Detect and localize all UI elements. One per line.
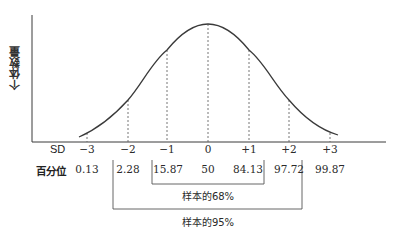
sd-tick: 0 (205, 143, 212, 155)
sd-tick: −3 (79, 143, 94, 155)
sd-tick: −1 (159, 143, 174, 155)
sd-tick: +2 (281, 143, 296, 155)
percentile-value: 2.28 (116, 163, 139, 175)
percentile-value: 99.87 (315, 163, 345, 175)
bracket-68-label: 样本的68% (182, 188, 234, 203)
percentile-value: 50 (201, 163, 214, 175)
percentile-row-label: 百分位 (36, 163, 66, 178)
sd-tick: +3 (322, 143, 337, 155)
percentile-value: 0.13 (75, 163, 98, 175)
percentile-value: 84.13 (233, 163, 263, 175)
bracket-95-label: 样本的95% (182, 214, 234, 229)
percentile-value: 15.87 (153, 163, 183, 175)
normal-curve (79, 24, 338, 137)
sd-tick: +1 (241, 143, 256, 155)
y-axis-label: 个体数量 (10, 46, 26, 90)
sd-row-label: SD (50, 143, 65, 155)
sd-tick: −2 (120, 143, 135, 155)
sd-dashed-lines (87, 24, 330, 142)
percentile-value: 97.72 (274, 163, 304, 175)
